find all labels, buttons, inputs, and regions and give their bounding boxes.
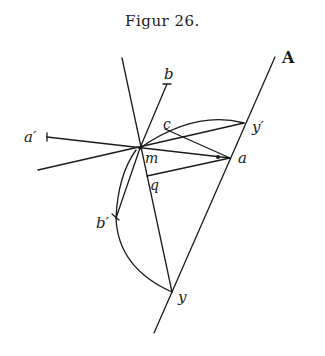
geometric-diagram: A b a′ c y′ m a q b′ y — [0, 0, 325, 356]
line-lower-left-yprime — [38, 123, 244, 170]
line-m-y — [122, 58, 172, 292]
label-aprime: a′ — [24, 128, 37, 146]
label-c: c — [163, 116, 171, 132]
line-m-bprime — [116, 148, 140, 218]
label-yprime: y′ — [251, 118, 264, 136]
label-y: y — [177, 288, 187, 306]
label-q: q — [150, 177, 159, 193]
point-m — [138, 146, 141, 149]
label-bprime: b′ — [96, 214, 110, 232]
label-m: m — [145, 150, 158, 166]
angle-mark-a — [216, 155, 220, 159]
label-A: A — [281, 48, 295, 67]
line-q-a — [147, 158, 230, 176]
label-a: a — [238, 149, 247, 167]
label-b: b — [164, 65, 174, 83]
